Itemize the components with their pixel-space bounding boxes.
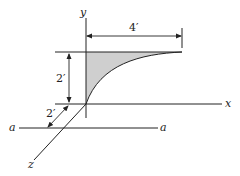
reference-axis-right-label: a — [160, 121, 167, 134]
width-dimension-label: 4′ — [129, 21, 139, 34]
area-diagram: y x z a a 4′ 2′ 2′ — [0, 0, 240, 176]
x-axis-label: x — [225, 97, 232, 110]
reference-axis-left-label: a — [9, 121, 16, 134]
height-dimension-label: 2′ — [56, 72, 66, 85]
z-axis-label: z — [27, 158, 34, 171]
offset-dimension-label: 2′ — [46, 107, 56, 120]
y-axis-label: y — [79, 6, 87, 19]
z-axis — [34, 104, 86, 160]
